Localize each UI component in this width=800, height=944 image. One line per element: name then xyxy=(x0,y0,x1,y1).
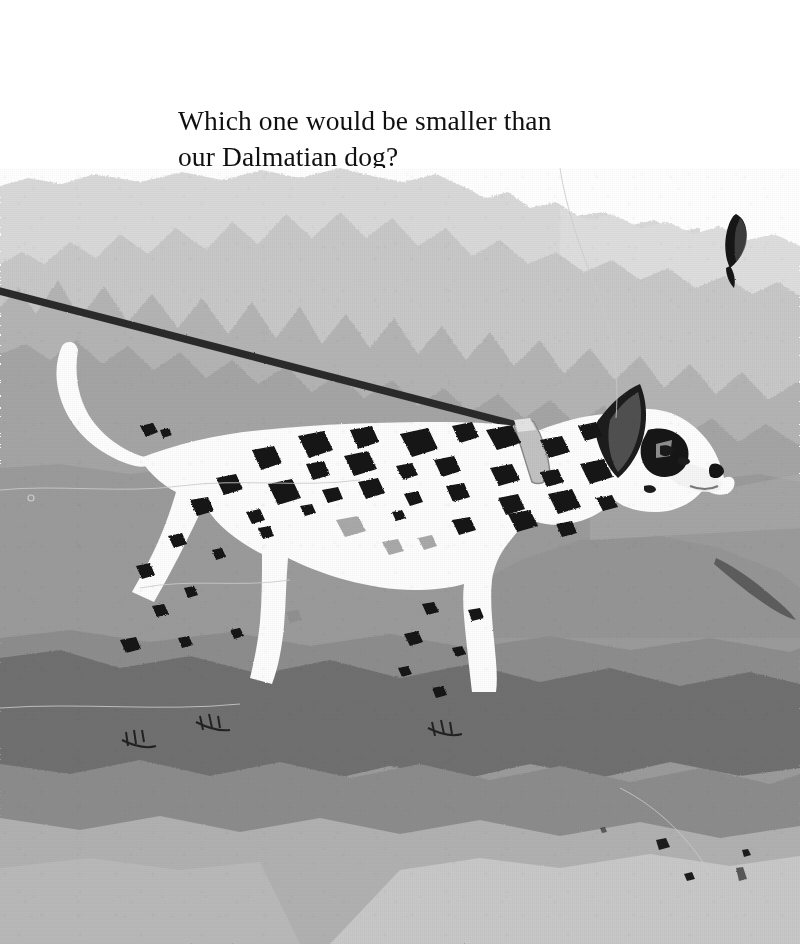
illustration xyxy=(0,168,800,944)
page-title: Which one would be smaller than our Dalm… xyxy=(178,103,698,175)
book-page: Which one would be smaller than our Dalm… xyxy=(0,0,800,944)
collage-artwork xyxy=(0,168,800,944)
foreground-left-wedge xyxy=(0,858,300,944)
